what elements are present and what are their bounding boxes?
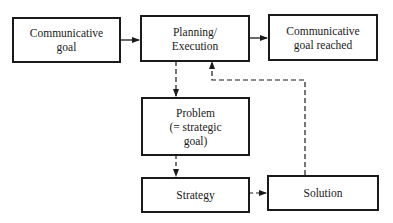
node-planning-execution: Planning/ Execution [140,15,250,62]
node-label: Strategy [176,188,214,202]
node-label: Planning/ Execution [172,25,219,53]
node-label: Communicative goal reached [286,24,359,52]
node-goal-reached: Communicative goal reached [268,14,378,61]
node-label: Problem (= strategic goal) [169,106,221,148]
node-strategy: Strategy [141,177,250,213]
node-label: Solution [304,186,343,200]
node-problem: Problem (= strategic goal) [141,97,250,156]
node-label: Communicative goal [30,26,103,54]
node-communicative-goal: Communicative goal [12,17,121,63]
node-solution: Solution [267,175,379,211]
